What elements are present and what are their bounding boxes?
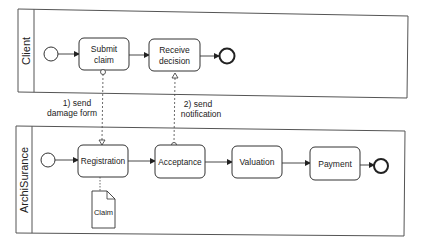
start-event-client[interactable] xyxy=(44,47,58,61)
task-label: Receive xyxy=(159,45,190,55)
task-label: Valuation xyxy=(240,157,275,167)
task-label: Acceptance xyxy=(158,157,202,167)
data-object-label: Claim xyxy=(94,208,113,217)
message-label-1: damage form xyxy=(47,108,97,118)
task-label: Registration xyxy=(81,156,126,166)
message-label-1: 1) send xyxy=(63,98,92,108)
data-object-claim[interactable]: Claim xyxy=(92,191,115,228)
pool-label-archisurance: ArchiSurance xyxy=(18,147,30,213)
start-event-archisurance[interactable] xyxy=(41,153,55,167)
end-event-client[interactable] xyxy=(220,49,235,64)
task-label: Submit xyxy=(91,44,118,54)
task-registration[interactable]: Registration xyxy=(78,145,128,177)
task-label: decision xyxy=(159,56,190,66)
task-label: claim xyxy=(94,55,114,65)
task-submit-claim[interactable]: Submit claim xyxy=(79,38,129,70)
pool-client[interactable]: Client xyxy=(18,9,408,98)
end-event-archisurance[interactable] xyxy=(374,159,388,173)
task-payment[interactable]: Payment xyxy=(310,147,360,180)
task-valuation[interactable]: Valuation xyxy=(232,146,282,178)
bpmn-diagram: Client ArchiSurance Submit claim Receive… xyxy=(0,0,421,249)
pool-archisurance[interactable]: ArchiSurance xyxy=(16,126,405,236)
task-label: Payment xyxy=(318,159,352,169)
task-acceptance[interactable]: Acceptance xyxy=(155,145,205,178)
task-receive-decision[interactable]: Receive decision xyxy=(149,39,200,71)
message-label-2: 2) send xyxy=(184,99,213,109)
message-label-2: notification xyxy=(181,109,222,119)
pool-label-client: Client xyxy=(20,37,32,65)
